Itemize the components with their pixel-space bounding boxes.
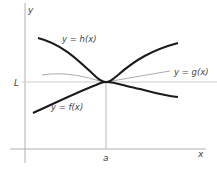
g-curve-label: y = g(x) [173, 67, 209, 77]
a-tick-label: a [103, 153, 109, 163]
curve-h [38, 38, 178, 82]
y-axis-label: y [27, 5, 34, 15]
h-curve-label: y = h(x) [61, 34, 97, 44]
f-curve-label: y = f(x) [50, 102, 83, 112]
x-axis-label: x [197, 149, 204, 159]
limit-L-label: L [14, 78, 19, 88]
squeeze-theorem-diagram: y x L a y = h(x) y = g(x) y = f(x) [0, 0, 217, 177]
